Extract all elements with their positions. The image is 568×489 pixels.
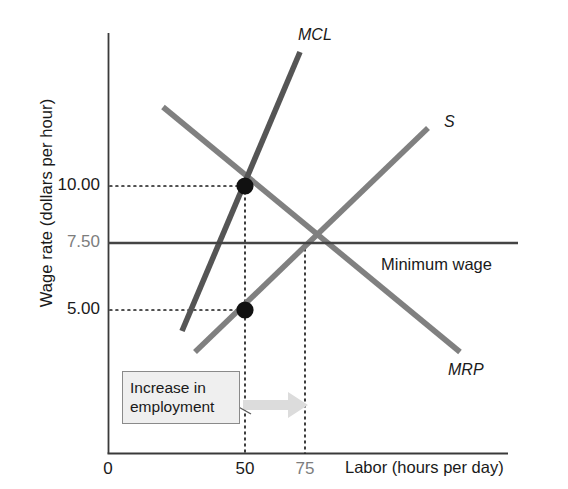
mrp-curve-label: MRP: [448, 361, 484, 379]
s-curve-label: S: [444, 113, 455, 131]
mcl-curve-label: MCL: [298, 26, 332, 44]
y-tick-label-10: 10.00: [24, 175, 100, 195]
minimum-wage-label: Minimum wage: [381, 255, 492, 274]
x-axis-title: Labor (hours per day): [345, 458, 504, 477]
minimum-wage-monopsony-chart: Wage rate (dollars per hour) 10.00 7.50 …: [0, 0, 568, 489]
y-tick-label-5-00: 5.00: [24, 299, 100, 319]
y-axis-title: Wage rate (dollars per hour): [37, 99, 56, 308]
monopsony-equilibrium-marker: [236, 177, 253, 194]
increase-in-employment-arrow: [243, 392, 308, 418]
x-tick-label-50: 50: [225, 459, 265, 479]
supply-wage-point-marker: [236, 301, 253, 318]
increase-in-employment-callout: Increase in employment: [122, 371, 240, 424]
x-tick-label-0: 0: [88, 459, 128, 479]
callout-line-2: employment: [130, 398, 239, 417]
x-tick-label-75: 75: [285, 459, 325, 479]
y-tick-label-7-50: 7.50: [24, 232, 100, 252]
callout-line-1: Increase in: [130, 379, 239, 398]
